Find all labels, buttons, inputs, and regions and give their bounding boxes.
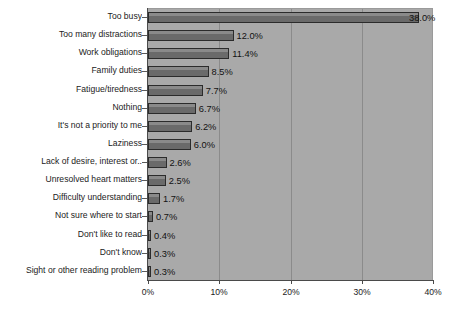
category-label: Don't like to read — [2, 226, 142, 243]
category-label: Too busy — [2, 8, 142, 25]
bar-value-label: 6.2% — [195, 120, 216, 135]
bar — [148, 48, 229, 59]
category-label: Sight or other reading problem — [2, 262, 142, 279]
x-axis-tick — [291, 280, 292, 284]
bar-row: Difficulty understanding1.7% — [0, 189, 461, 207]
category-label: Not sure where to start — [2, 207, 142, 224]
bar — [148, 12, 419, 23]
bar — [148, 248, 151, 259]
bar-value-label: 1.7% — [163, 192, 184, 207]
category-label: Nothing — [2, 99, 142, 116]
bar-row: Not sure where to start0.7% — [0, 207, 461, 225]
x-axis-line — [147, 280, 433, 281]
bar-row: Laziness6.0% — [0, 135, 461, 153]
bar — [148, 30, 234, 41]
y-axis-tick — [142, 53, 147, 54]
x-axis-tick — [433, 280, 434, 284]
y-axis-tick — [142, 71, 147, 72]
y-axis-tick — [142, 90, 147, 91]
category-label: Difficulty understanding — [2, 189, 142, 206]
y-axis-tick — [142, 253, 147, 254]
category-label: Don't know — [2, 244, 142, 261]
y-axis-tick — [142, 17, 147, 18]
bar-row: Fatigue/tiredness7.7% — [0, 81, 461, 99]
bar — [148, 157, 167, 168]
y-axis-tick — [142, 216, 147, 217]
bar-row: Nothing6.7% — [0, 99, 461, 117]
category-label: Laziness — [2, 135, 142, 152]
y-axis-tick — [142, 271, 147, 272]
bar-value-label: 0.7% — [156, 210, 177, 225]
bar-chart: Too busy38.0%Too many distractions12.0%W… — [0, 0, 461, 320]
y-axis-tick — [142, 235, 147, 236]
y-axis-tick — [142, 162, 147, 163]
x-axis-tick-label: 40% — [413, 287, 453, 297]
x-axis-tick-label: 0% — [128, 287, 168, 297]
y-axis-tick — [142, 198, 147, 199]
bar-row: Unresolved heart matters2.5% — [0, 171, 461, 189]
bar-value-label: 7.7% — [206, 84, 227, 99]
bar-row: Don't know0.3% — [0, 244, 461, 262]
bar-row: Sight or other reading problem0.3% — [0, 262, 461, 280]
bar-row: Don't like to read0.4% — [0, 226, 461, 244]
category-label: Unresolved heart matters — [2, 171, 142, 188]
x-axis-tick — [148, 280, 149, 284]
y-axis-tick — [142, 35, 147, 36]
x-axis-tick-label: 30% — [342, 287, 382, 297]
bar-value-label: 0.3% — [154, 265, 175, 280]
bar-value-label: 0.3% — [154, 247, 175, 262]
bar — [148, 85, 203, 96]
bar-row: Too many distractions12.0% — [0, 26, 461, 44]
bar — [148, 66, 209, 77]
x-axis-tick-label: 10% — [199, 287, 239, 297]
bar-row: Work obligations11.4% — [0, 44, 461, 62]
bar — [148, 121, 192, 132]
y-axis-tick — [142, 126, 147, 127]
bar — [148, 175, 166, 186]
bar — [148, 139, 191, 150]
category-label: It's not a priority to me — [2, 117, 142, 134]
bar-value-label: 6.0% — [194, 138, 215, 153]
category-label: Work obligations — [2, 44, 142, 61]
x-axis-tick-label: 20% — [271, 287, 311, 297]
bar-value-label: 6.7% — [199, 102, 220, 117]
bar-value-label: 2.6% — [170, 156, 191, 171]
bar-value-label: 12.0% — [237, 29, 263, 44]
bar — [148, 266, 151, 277]
y-axis-tick — [142, 180, 147, 181]
bar — [148, 193, 160, 204]
bar-value-label: 38.0% — [409, 11, 435, 26]
category-label: Family duties — [2, 62, 142, 79]
bar-row: Lack of desire, interest or..2.6% — [0, 153, 461, 171]
bar-row: Too busy38.0% — [0, 8, 461, 26]
bar — [148, 211, 153, 222]
x-axis-tick — [219, 280, 220, 284]
bar — [148, 230, 151, 241]
category-label: Too many distractions — [2, 26, 142, 43]
category-label: Fatigue/tiredness — [2, 81, 142, 98]
bar-value-label: 0.4% — [154, 229, 175, 244]
y-axis-tick — [142, 108, 147, 109]
category-label: Lack of desire, interest or.. — [2, 153, 142, 170]
bar-row: It's not a priority to me6.2% — [0, 117, 461, 135]
bar-value-label: 11.4% — [232, 47, 258, 62]
bar-value-label: 8.5% — [212, 65, 233, 80]
bar — [148, 103, 196, 114]
bar-value-label: 2.5% — [169, 174, 190, 189]
x-axis-tick — [362, 280, 363, 284]
y-axis-tick — [142, 144, 147, 145]
bar-row: Family duties8.5% — [0, 62, 461, 80]
